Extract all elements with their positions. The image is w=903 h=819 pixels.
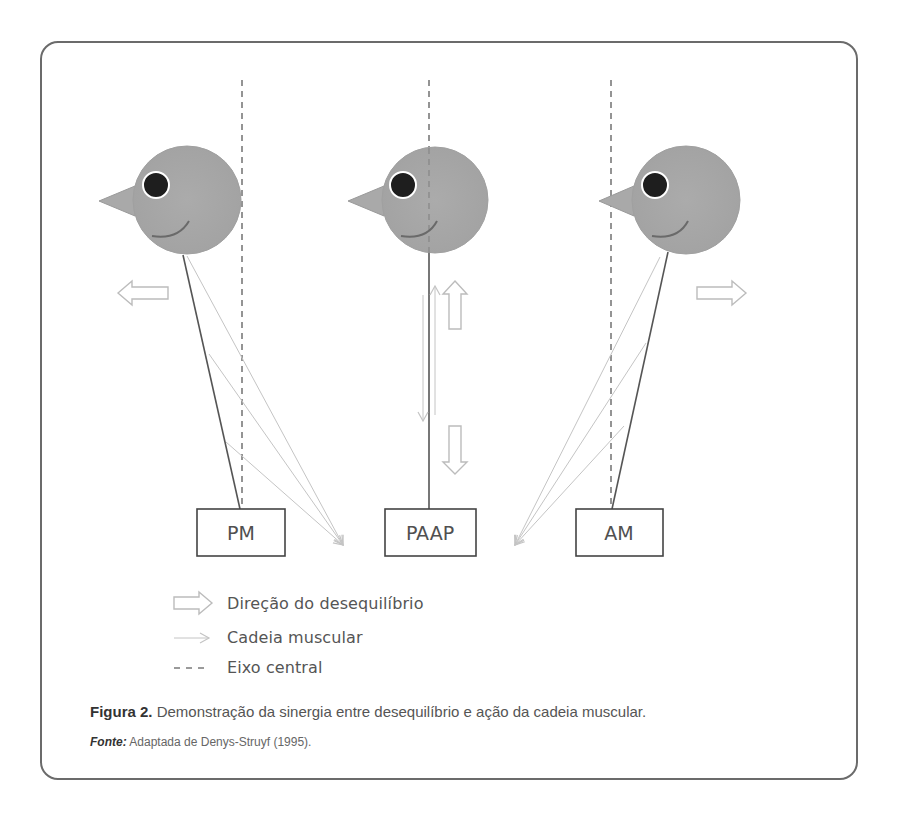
block-arrow-icon <box>174 592 212 614</box>
bird-head-icon <box>599 146 740 254</box>
legend-icons <box>174 592 212 668</box>
box-am-label: AM <box>604 522 633 544</box>
figure-source: Fonte: Adaptada de Denys-Struyf (1995). <box>90 735 311 749</box>
panel-paap: PAAP <box>348 80 488 556</box>
caption-text: Demonstração da sinergia entre desequilí… <box>153 703 647 720</box>
panel-pm: PM <box>99 80 343 556</box>
box-paap-label: PAAP <box>406 522 454 544</box>
bird-head-icon <box>348 147 488 253</box>
imbalance-arrow-left-icon <box>118 281 168 305</box>
box-pm-label: PM <box>227 522 255 544</box>
legend-label-central-axis: Eixo central <box>227 658 323 677</box>
panel-am: AM <box>515 80 746 556</box>
legend-label-imbalance: Direção do desequilíbrio <box>227 594 424 613</box>
imbalance-arrow-up-icon <box>443 281 467 329</box>
figure-caption: Figura 2. Demonstração da sinergia entre… <box>90 703 646 720</box>
caption-prefix: Figura 2. <box>90 703 153 720</box>
source-prefix: Fonte: <box>90 735 127 749</box>
bird-head-icon <box>99 146 241 254</box>
muscle-chain-arrows <box>187 256 343 545</box>
body-line <box>612 252 668 509</box>
imbalance-arrow-right-icon <box>697 281 746 305</box>
imbalance-arrow-down-icon <box>443 426 467 474</box>
body-line <box>183 255 240 509</box>
diagram-canvas: PM PAAP <box>0 0 903 819</box>
source-text: Adaptada de Denys-Struyf (1995). <box>127 735 312 749</box>
legend-label-muscle-chain: Cadeia muscular <box>227 628 363 647</box>
muscle-chain-arrows <box>515 257 660 545</box>
